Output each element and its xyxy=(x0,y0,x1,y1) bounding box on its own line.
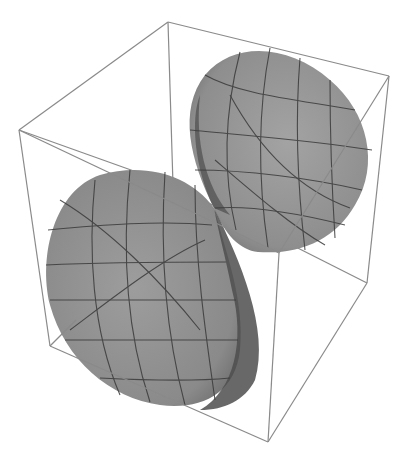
surface-plot-3d xyxy=(0,0,404,466)
